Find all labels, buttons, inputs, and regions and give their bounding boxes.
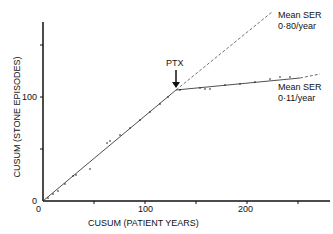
y-tick-100: 100 xyxy=(22,92,37,102)
ser-low-label-1: Mean SER xyxy=(278,82,322,92)
y-tick-0: 0 xyxy=(32,196,37,206)
x-axis-label: CUSUM (PATIENT YEARS) xyxy=(88,218,199,228)
ser-low-label-2: 0·11/year xyxy=(278,93,315,103)
x-tick-100: 100 xyxy=(138,204,153,214)
ser-high-label-1: Mean SER xyxy=(278,10,322,20)
ptx-label: PTX xyxy=(166,58,184,68)
x-tick-200: 200 xyxy=(238,204,253,214)
y-axis-label: CUSUM (STONE EPISODES) xyxy=(12,52,22,182)
cusum-chart: PTX Mean SER 0·80/year Mean SER 0·11/yea… xyxy=(0,0,333,234)
ser-high-label-2: 0·80/year xyxy=(278,21,316,31)
chart-plot xyxy=(0,0,333,234)
